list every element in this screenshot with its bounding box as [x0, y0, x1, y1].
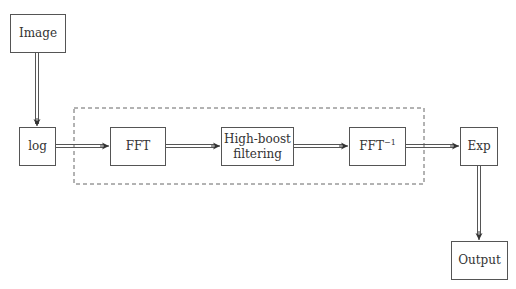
node-ifft-superscript: −1: [384, 138, 396, 147]
node-highboost-filtering: High-boost filtering: [221, 127, 294, 166]
node-log-label: log: [28, 139, 47, 154]
arrow-ifft-to-exp: [405, 145, 459, 148]
node-ifft-base: FFT: [359, 139, 384, 153]
node-exp: Exp: [460, 127, 498, 166]
arrow-image-to-log: [36, 52, 39, 126]
node-log: log: [19, 127, 56, 166]
node-output-label: Output: [458, 253, 501, 268]
node-ifft-label: FFT−1: [359, 139, 395, 154]
node-fft-label: FFT: [126, 139, 151, 154]
node-exp-label: Exp: [467, 139, 490, 154]
node-output: Output: [451, 241, 508, 280]
arrow-log-to-fft: [55, 145, 109, 148]
node-fft: FFT: [110, 127, 166, 166]
node-inverse-fft: FFT−1: [349, 127, 406, 166]
arrow-highboost-to-ifft: [293, 145, 348, 148]
node-highboost-label-line2: filtering: [233, 147, 282, 162]
node-image: Image: [10, 14, 66, 53]
arrow-exp-to-output: [478, 165, 481, 240]
node-highboost-label-line1: High-boost: [224, 132, 291, 147]
arrow-fft-to-highboost: [165, 145, 220, 148]
node-image-label: Image: [19, 26, 57, 41]
